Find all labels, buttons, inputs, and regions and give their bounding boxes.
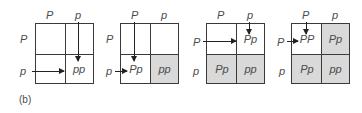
arrow-right-icon bbox=[115, 71, 127, 72]
arrow-right-icon bbox=[203, 41, 236, 42]
arrow-down-icon bbox=[306, 22, 307, 34]
cell-pp: pp bbox=[237, 54, 264, 83]
cell-Pp-top bbox=[151, 24, 178, 54]
cell-Pp-bottom: Pp bbox=[207, 54, 237, 83]
punnett-grid: Pp pp bbox=[120, 23, 179, 84]
col-header-P: P bbox=[46, 9, 53, 21]
cell-Pp-top bbox=[65, 24, 93, 54]
arrow-down-icon bbox=[134, 22, 135, 61]
grid-divider-horizontal bbox=[36, 54, 93, 55]
arrow-right-icon bbox=[287, 41, 298, 42]
cell-PP bbox=[36, 24, 65, 54]
row-header-P: P bbox=[277, 36, 284, 48]
grid-divider-horizontal bbox=[121, 54, 178, 55]
col-header-p: p bbox=[332, 9, 338, 21]
row-header-p: p bbox=[106, 65, 112, 77]
row-header-P: P bbox=[106, 33, 113, 45]
figure-caption: (b) bbox=[19, 94, 31, 105]
row-header-p: p bbox=[279, 65, 285, 77]
punnett-grid: Pp Pp pp bbox=[206, 23, 265, 84]
cell-Pp-top: Pp bbox=[322, 24, 349, 54]
grid-divider-horizontal bbox=[292, 54, 349, 55]
col-header-p: p bbox=[247, 9, 253, 21]
cell-Pp-bottom: Pp bbox=[292, 54, 322, 83]
col-header-p: p bbox=[75, 9, 81, 21]
arrow-right-icon bbox=[32, 71, 64, 72]
col-header-P: P bbox=[131, 9, 138, 21]
col-header-p: p bbox=[161, 9, 167, 21]
cell-pp: pp bbox=[322, 54, 349, 83]
row-header-p: p bbox=[20, 65, 26, 77]
row-header-p: p bbox=[193, 65, 199, 77]
row-header-P: P bbox=[193, 36, 200, 48]
col-header-P: P bbox=[217, 9, 224, 21]
arrow-down-icon bbox=[249, 22, 250, 34]
punnett-grid: PP Pp Pp pp bbox=[291, 23, 350, 84]
punnett-grid: pp bbox=[35, 23, 94, 84]
cell-pp: pp bbox=[151, 54, 178, 83]
arrow-down-icon bbox=[78, 22, 79, 61]
cell-PP bbox=[121, 24, 151, 54]
row-header-P: P bbox=[20, 33, 27, 45]
col-header-P: P bbox=[302, 9, 309, 21]
grid-divider-horizontal bbox=[207, 54, 264, 55]
